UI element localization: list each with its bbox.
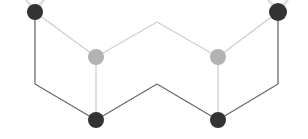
front-atom-node: [27, 4, 43, 20]
molecule-diagram: [0, 0, 308, 139]
back-atoms: [88, 49, 226, 65]
front-bond: [218, 84, 278, 120]
back-atom-node: [88, 49, 104, 65]
front-atoms: [27, 3, 287, 128]
back-bond: [157, 22, 218, 57]
back-bond: [96, 22, 157, 57]
front-bond: [96, 84, 157, 120]
front-bond: [35, 84, 96, 120]
back-bond: [218, 12, 278, 57]
front-bond: [157, 84, 218, 120]
back-bond: [35, 12, 96, 57]
front-bonds: [35, 12, 278, 120]
front-atom-node: [210, 112, 226, 128]
hydrogen-stubs: [26, 0, 288, 10]
front-atom-node: [269, 3, 287, 21]
front-atom-node: [88, 112, 104, 128]
back-atom-node: [210, 49, 226, 65]
back-bonds: [35, 12, 278, 120]
